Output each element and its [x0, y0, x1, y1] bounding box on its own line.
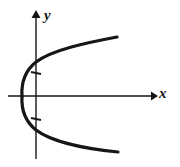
parabola-figure: y x	[0, 0, 180, 167]
x-axis-arrowhead-icon	[151, 92, 158, 101]
y-axis-arrowhead-icon	[32, 10, 41, 18]
y-axis-label: y	[44, 8, 51, 23]
y-axis-upper-intercept-tick	[31, 72, 41, 74]
x-axis-label: x	[159, 86, 167, 101]
coordinate-plane-svg	[0, 0, 180, 167]
y-axis-lower-intercept-tick	[31, 118, 41, 120]
